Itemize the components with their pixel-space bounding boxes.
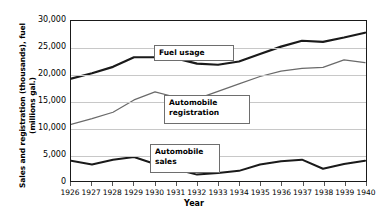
y-axis-tick-label: 10,000	[20, 124, 66, 132]
x-axis-tick-marks	[70, 182, 367, 187]
y-axis-tick-label: 5,000	[20, 151, 66, 159]
gridline	[71, 129, 366, 130]
x-axis-tick-mark	[91, 182, 92, 186]
x-axis-tick-mark	[366, 182, 367, 186]
y-axis-tick-label: 15,000	[20, 97, 66, 105]
x-axis-tick-mark	[133, 182, 134, 186]
x-axis-title: Year	[0, 199, 388, 208]
x-axis-tick-mark	[176, 182, 177, 186]
x-axis-tick-mark	[260, 182, 261, 186]
x-axis-tick-mark	[70, 182, 71, 186]
x-axis-tick-label: 1940	[353, 188, 379, 197]
annotation-fuel-usage: Fuel usage	[154, 45, 234, 61]
x-axis-tick-mark	[112, 182, 113, 186]
x-axis-tick-mark	[345, 182, 346, 186]
x-axis-tick-mark	[303, 182, 304, 186]
gridline	[71, 75, 366, 76]
chart-figure: Sales and registration (thousands), fuel…	[0, 0, 388, 220]
y-axis-tick-label: 25,000	[20, 43, 66, 51]
annotation-automobile-registration: Automobile registration	[164, 95, 250, 124]
y-axis-tick-label: 30,000	[20, 16, 66, 24]
x-axis-tick-mark	[324, 182, 325, 186]
x-axis-tick-mark	[281, 182, 282, 186]
x-axis-tick-mark	[218, 182, 219, 186]
y-axis-tick-label: 0	[20, 178, 66, 186]
annotation-automobile-sales: Automobile sales	[150, 144, 220, 173]
y-axis-tick-labels: 05,00010,00015,00020,00025,00030,000	[18, 0, 66, 220]
x-axis-tick-mark	[197, 182, 198, 186]
x-axis-tick-mark	[155, 182, 156, 186]
y-axis-tick-label: 20,000	[20, 70, 66, 78]
x-axis-tick-mark	[239, 182, 240, 186]
